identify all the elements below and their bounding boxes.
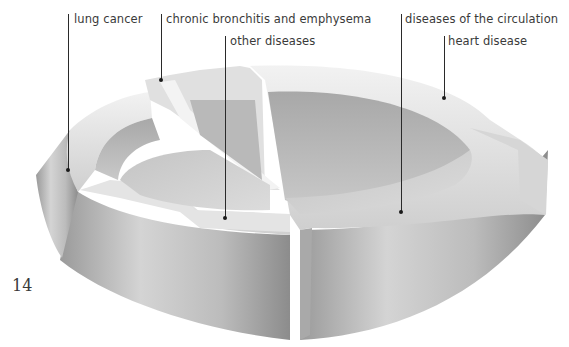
marker-other-diseases (223, 216, 227, 220)
marker-chronic-bronchitis (159, 78, 163, 82)
leader-lung-cancer (68, 14, 69, 170)
pie-diagram: lung cancer chronic bronchitis and emphy… (0, 0, 569, 347)
leader-other-diseases (225, 36, 226, 218)
leader-chronic-bronchitis (161, 14, 162, 80)
label-chronic-bronchitis: chronic bronchitis and emphysema (166, 12, 371, 26)
marker-heart-disease (442, 96, 446, 100)
label-circulation: diseases of the circulation (405, 12, 558, 26)
leader-heart-disease (444, 36, 445, 98)
marker-lung-cancer (66, 168, 70, 172)
label-other-diseases: other diseases (230, 34, 315, 48)
slice-circulation (250, 65, 548, 340)
label-lung-cancer: lung cancer (74, 12, 143, 26)
marker-circulation (399, 210, 403, 214)
leader-circulation (401, 14, 402, 212)
label-heart-disease: heart disease (448, 34, 527, 48)
pie-graphic (0, 0, 569, 347)
page-number: 14 (12, 276, 32, 295)
